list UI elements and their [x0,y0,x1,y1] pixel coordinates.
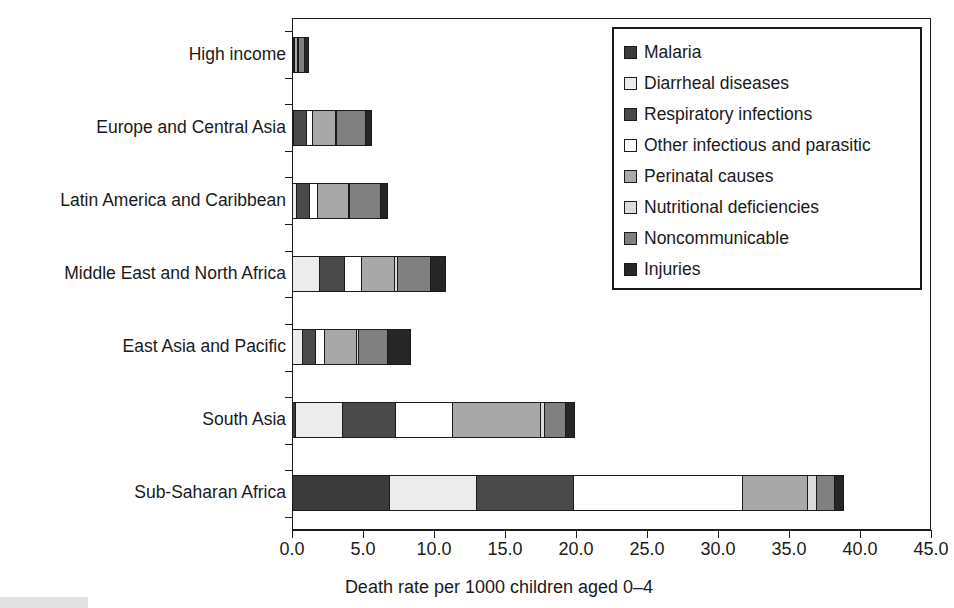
x-axis-tick [363,530,364,538]
legend-item[interactable]: Perinatal causes [624,161,920,192]
legend-item[interactable]: Other infectious and parasitic [624,130,920,161]
stacked-bar-chart: High incomeEurope and Central AsiaLatin … [0,0,954,608]
bar-segment [317,183,350,219]
bar-row [292,37,309,73]
bar-segment [395,402,453,438]
bar-segment [342,402,396,438]
legend-item[interactable]: Respiratory infections [624,99,920,130]
bar-segment [816,475,836,511]
x-axis-tick-label: 5.0 [350,540,375,558]
legend-item[interactable]: Nutritional deficiencies [624,192,920,223]
y-axis-category-labels: High incomeEurope and Central AsiaLatin … [0,18,286,530]
bar-row [292,475,844,511]
legend-label: Nutritional deficiencies [644,199,819,217]
x-axis-title: Death rate per 1000 children aged 0–4 [0,578,954,596]
legend-label: Other infectious and parasitic [644,137,871,155]
bar-row [292,183,388,219]
y-axis-tick [285,251,293,252]
legend-label: Injuries [644,261,700,279]
legend-swatch-icon [624,139,637,152]
x-axis-tick-label: 0.0 [279,540,304,558]
bar-row [292,256,446,292]
legend-label: Diarrheal diseases [644,75,789,93]
bar-segment [324,329,357,365]
bar-segment [544,402,565,438]
x-axis-tick-label: 35.0 [771,540,806,558]
bar-segment [292,475,390,511]
bar-segment [565,402,575,438]
bar-segment [389,475,477,511]
bar-segment [365,110,372,146]
x-axis-tick-label: 15.0 [487,540,522,558]
x-axis-tick [931,530,932,538]
bar-segment [344,256,362,292]
x-axis-tick [292,530,293,538]
y-axis-label: High income [0,46,286,64]
legend-swatch-icon [624,108,637,121]
y-axis-tick [285,151,293,152]
y-axis-tick [285,444,293,445]
bar-segment [304,37,309,73]
bar-segment [573,475,743,511]
y-axis-label: East Asia and Pacific [0,338,286,356]
y-axis-label: Sub-Saharan Africa [0,485,286,503]
page-scan-artifact [0,597,88,608]
legend-label: Noncommunicable [644,230,789,248]
x-axis-tick [576,530,577,538]
y-axis-tick [285,78,293,79]
y-axis-tick [285,297,293,298]
bar-segment [430,256,446,292]
x-axis-tick-label: 25.0 [629,540,664,558]
x-axis-title-text: Death rate per 1000 children aged 0–4 [345,577,653,597]
x-axis-tick [860,530,861,538]
y-axis-tick [285,397,293,398]
legend-item[interactable]: Noncommunicable [624,223,920,254]
legend-swatch-icon [624,46,637,59]
legend-swatch-icon [624,263,637,276]
bar-segment [476,475,574,511]
y-axis-tick [285,177,293,178]
legend-swatch-icon [624,77,637,90]
legend-swatch-icon [624,170,637,183]
bar-segment [742,475,807,511]
y-axis-tick [285,104,293,105]
bar-segment [295,402,343,438]
bar-segment [349,183,380,219]
bar-segment [358,329,388,365]
x-axis-tick-label: 45.0 [913,540,948,558]
y-axis-tick [285,324,293,325]
bar-row [292,402,575,438]
legend-label: Malaria [644,44,701,62]
legend-item[interactable]: Malaria [624,37,920,68]
y-axis-tick [285,470,293,471]
legend-item[interactable]: Injuries [624,254,920,285]
x-axis-tick-label: 40.0 [842,540,877,558]
bar-segment [312,110,336,146]
bar-segment [387,329,411,365]
legend-item[interactable]: Diarrheal diseases [624,68,920,99]
y-axis-label: Europe and Central Asia [0,119,286,137]
bar-segment [380,183,389,219]
bar-segment [834,475,844,511]
legend-label: Perinatal causes [644,168,773,186]
legend-swatch-icon [624,232,637,245]
legend-swatch-icon [624,201,637,214]
y-axis-tick [285,31,293,32]
bar-row [292,110,372,146]
bar-segment [293,110,307,146]
x-axis-line [292,530,931,531]
x-axis-tick-label: 10.0 [416,540,451,558]
x-axis-tick [505,530,506,538]
bar-segment [361,256,395,292]
x-axis-tick [647,530,648,538]
bar-segment [336,110,366,146]
x-axis-tick-label: 30.0 [700,540,735,558]
bar-segment [302,329,316,365]
bar-segment [296,183,310,219]
bar-segment [397,256,431,292]
y-axis-label: South Asia [0,412,286,430]
x-axis-tick [434,530,435,538]
x-axis-tick [718,530,719,538]
bar-segment [452,402,541,438]
legend: MalariaDiarrheal diseasesRespiratory inf… [612,27,922,290]
